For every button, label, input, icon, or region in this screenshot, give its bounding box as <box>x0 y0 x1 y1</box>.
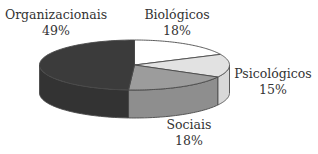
label-sociais: Sociais <box>167 117 212 132</box>
label-psicologicos: Psicológicos <box>234 66 311 81</box>
value-organizacionais: 49% <box>42 23 70 38</box>
label-organizacionais: Organizacionais <box>5 7 107 22</box>
value-sociais: 18% <box>175 133 203 148</box>
pie-chart: Organizacionais 49% Biológicos 18% Psico… <box>0 0 318 154</box>
pie-top-faces <box>40 40 230 90</box>
label-biologicos: Biológicos <box>144 7 209 22</box>
value-psicologicos: 15% <box>259 82 287 97</box>
value-biologicos: 18% <box>163 23 191 38</box>
